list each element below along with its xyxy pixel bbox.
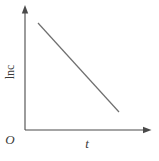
lnc-vs-t-plot: O t lnc — [0, 0, 159, 161]
plot-canvas: O t lnc — [0, 0, 159, 161]
y-axis-label: lnc — [3, 65, 17, 80]
y-axis-arrowhead — [22, 5, 28, 14]
x-axis-label: t — [85, 136, 89, 151]
data-line — [38, 23, 119, 112]
origin-label: O — [5, 132, 15, 147]
x-axis-arrowhead — [143, 127, 152, 133]
